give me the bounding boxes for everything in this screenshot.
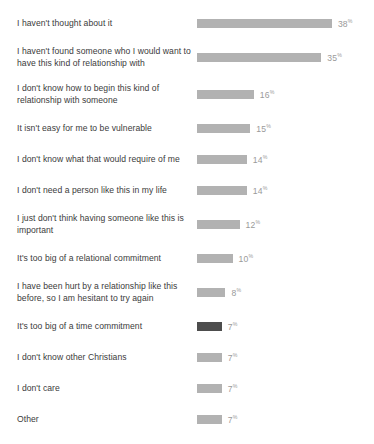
percent-sign: %	[348, 18, 353, 24]
bar-row: It's too big of a time commitment7%	[0, 311, 374, 342]
bar-row: Other7%	[0, 404, 374, 435]
bar-track: 35%	[197, 39, 374, 76]
bar-value-label: 35%	[327, 52, 342, 63]
bar-value-number: 14	[253, 155, 263, 165]
bar-row-label: I don't know what that would require of …	[17, 154, 197, 166]
bar-value-label: 12%	[246, 219, 261, 230]
bar-value-label: 7%	[228, 321, 238, 332]
bar-row: It isn't easy for me to be vulnerable15%	[0, 113, 374, 144]
bar-row: I don't know what that would require of …	[0, 144, 374, 175]
bar-track: 14%	[197, 144, 374, 175]
bar-value-label: 16%	[260, 89, 275, 100]
bar-row-label: It isn't easy for me to be vulnerable	[17, 123, 197, 135]
bar-row: I don't need a person like this in my li…	[0, 175, 374, 206]
bar-value-label: 10%	[239, 253, 254, 264]
bar-value-label: 38%	[338, 18, 353, 29]
bar-row: I haven't thought about it38%	[0, 8, 374, 39]
bar-row: I just don't think having someone like t…	[0, 206, 374, 243]
bar-row-label: I just don't think having someone like t…	[17, 213, 197, 236]
percent-sign: %	[233, 321, 238, 327]
bar-value-label: 14%	[253, 154, 268, 165]
bar-value-label: 7%	[228, 383, 238, 394]
percent-sign: %	[256, 219, 261, 225]
bar-value-label: 7%	[228, 352, 238, 363]
percent-sign: %	[337, 52, 342, 58]
bar-row-label: I don't know how to begin this kind of r…	[17, 83, 197, 106]
bar	[197, 90, 254, 99]
percent-sign: %	[233, 383, 238, 389]
bar-value-number: 14	[253, 186, 263, 196]
bar-track: 16%	[197, 76, 374, 113]
bar-row-label: I don't need a person like this in my li…	[17, 185, 197, 197]
bar	[197, 384, 222, 393]
bar-row: I haven't found someone who I would want…	[0, 39, 374, 76]
bar-highlighted	[197, 322, 222, 331]
bar	[197, 353, 222, 362]
bar	[197, 254, 233, 263]
bar-row-label: It's too big of a relational commitment	[17, 253, 197, 265]
bar-row: I don't know how to begin this kind of r…	[0, 76, 374, 113]
horizontal-bar-chart: I haven't thought about it38%I haven't f…	[0, 0, 374, 444]
percent-sign: %	[270, 89, 275, 95]
bar-row-label: I haven't found someone who I would want…	[17, 46, 197, 69]
bar-value-label: 14%	[253, 185, 268, 196]
bar-row: I don't care7%	[0, 373, 374, 404]
bar	[197, 415, 222, 424]
bar-track: 7%	[197, 404, 374, 435]
bar-row: I don't know other Christians7%	[0, 342, 374, 373]
bar-track: 10%	[197, 243, 374, 274]
percent-sign: %	[266, 123, 271, 129]
bar-track: 7%	[197, 342, 374, 373]
percent-sign: %	[248, 253, 253, 259]
bar-row-label: I haven't thought about it	[17, 18, 197, 30]
bar-track: 7%	[197, 311, 374, 342]
bar	[197, 155, 247, 164]
bar-track: 15%	[197, 113, 374, 144]
bar-row-label: I have been hurt by a relationship like …	[17, 281, 197, 304]
bar-value-label: 7%	[228, 414, 238, 425]
percent-sign: %	[236, 287, 241, 293]
bar	[197, 186, 247, 195]
percent-sign: %	[263, 185, 268, 191]
bar-track: 8%	[197, 274, 374, 311]
bar-value-number: 16	[260, 90, 270, 100]
bar-row-label: I don't know other Christians	[17, 352, 197, 364]
bar-value-number: 12	[246, 220, 256, 230]
bar-row: It's too big of a relational commitment1…	[0, 243, 374, 274]
bar-value-number: 10	[239, 254, 249, 264]
bar-value-label: 8%	[231, 287, 241, 298]
bar-track: 14%	[197, 175, 374, 206]
bar-track: 38%	[197, 8, 374, 39]
bar	[197, 124, 250, 133]
bar-track: 12%	[197, 206, 374, 243]
percent-sign: %	[263, 154, 268, 160]
bar-value-number: 15	[256, 124, 266, 134]
bar-value-label: 15%	[256, 123, 271, 134]
bar-row: I have been hurt by a relationship like …	[0, 274, 374, 311]
bar	[197, 288, 225, 297]
percent-sign: %	[233, 352, 238, 358]
bar	[197, 220, 240, 229]
bar	[197, 19, 332, 28]
bar-row-label: Other	[17, 414, 197, 426]
bar-row-label: It's too big of a time commitment	[17, 321, 197, 333]
bar-track: 7%	[197, 373, 374, 404]
bar	[197, 53, 321, 62]
bar-row-label: I don't care	[17, 383, 197, 395]
bar-value-number: 38	[338, 19, 348, 29]
percent-sign: %	[233, 414, 238, 420]
bar-value-number: 35	[327, 53, 337, 63]
